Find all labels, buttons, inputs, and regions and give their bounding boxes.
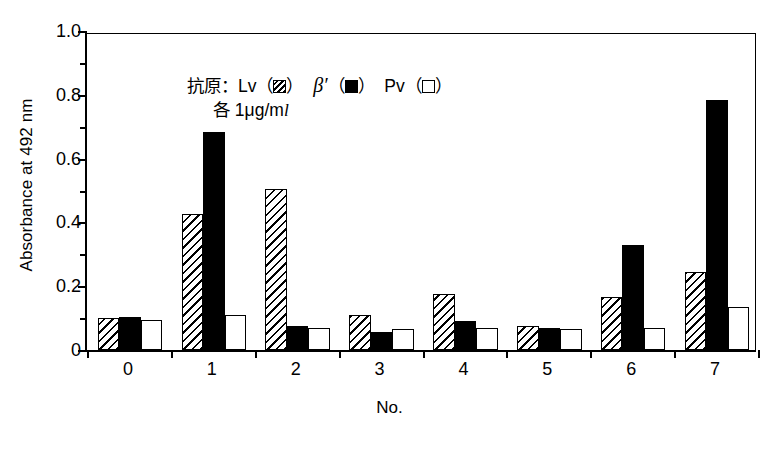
x-group-label-0: 0 <box>123 360 133 378</box>
legend-paren-open-3: （ <box>405 76 422 96</box>
x-group-label-2: 2 <box>291 360 301 378</box>
legend-row-concentration: 各 1μg/ml <box>187 99 452 123</box>
x-group-label-6: 6 <box>626 360 636 378</box>
bar--group-1 <box>203 132 225 351</box>
bar-Pv-group-7 <box>728 307 750 350</box>
x-tick-mark <box>339 350 341 358</box>
legend-row-antigens: 抗原：Lv（） β′（） Pv（） <box>187 72 452 99</box>
y-tick-mark <box>80 318 87 320</box>
x-tick-mark <box>171 350 173 358</box>
bar--group-2 <box>287 326 309 350</box>
y-tick-label: 0.4 <box>56 213 81 231</box>
x-group-label-5: 5 <box>542 360 552 378</box>
legend-beta-label: β′ <box>313 74 327 96</box>
x-group-label-4: 4 <box>458 360 468 378</box>
open-square-icon <box>422 80 435 93</box>
y-tick-mark <box>80 191 87 193</box>
x-axis-title: No. <box>0 398 779 418</box>
bar-Lv-group-1 <box>182 214 204 350</box>
x-tick-mark <box>87 350 89 358</box>
y-tick-mark <box>80 127 87 129</box>
legend-lv-label: 抗原：Lv <box>187 76 256 96</box>
x-tick-mark <box>506 350 508 358</box>
x-tick-mark <box>758 350 760 358</box>
x-tick-mark <box>255 350 257 358</box>
x-tick-mark <box>590 350 592 358</box>
y-axis-title: Absorbance at 492 nm <box>14 25 40 345</box>
legend-conc-prefix: 各 1 <box>213 100 245 120</box>
bar--group-4 <box>455 321 477 350</box>
bar-Lv-group-7 <box>685 272 707 350</box>
bar--group-3 <box>371 332 393 350</box>
legend-paren-open-1: （ <box>256 76 273 96</box>
x-tick-mark <box>423 350 425 358</box>
legend-mu-symbol: μ <box>245 100 255 120</box>
bar-Lv-group-3 <box>349 315 371 350</box>
legend: 抗原：Lv（） β′（） Pv（） 各 1μg/ml <box>187 72 452 123</box>
legend-conc-unit: g/m <box>255 100 284 120</box>
bar-Pv-group-1 <box>225 315 247 350</box>
legend-conc-unit-litre: l <box>284 100 289 120</box>
bar--group-7 <box>706 100 728 350</box>
legend-paren-close-2: ） <box>358 76 375 96</box>
y-tick-label: 1.0 <box>56 22 81 40</box>
bar-Lv-group-0 <box>98 318 120 350</box>
bar-Lv-group-4 <box>433 294 455 350</box>
bar--group-0 <box>119 317 141 350</box>
bar-Pv-group-3 <box>392 329 414 350</box>
legend-paren-close-1: ） <box>286 76 303 96</box>
x-group-label-1: 1 <box>207 360 217 378</box>
bar-Pv-group-2 <box>308 328 330 350</box>
filled-square-icon <box>345 80 358 93</box>
chart-figure: Absorbance at 492 nm 00.20.40.60.81.0 抗原… <box>0 0 779 450</box>
bar-Lv-group-2 <box>265 189 287 350</box>
bar-Pv-group-6 <box>644 328 666 350</box>
y-tick-mark <box>80 254 87 256</box>
legend-pv-label: Pv <box>384 76 404 96</box>
bar-Lv-group-5 <box>517 326 539 350</box>
x-group-label-7: 7 <box>710 360 720 378</box>
y-tick-label: 0 <box>71 341 81 359</box>
y-tick-mark <box>80 63 87 65</box>
legend-paren-close-3: ） <box>435 76 452 96</box>
y-tick-label: 0.6 <box>56 150 81 168</box>
bar-Pv-group-0 <box>141 320 163 350</box>
plot-area: 00.20.40.60.81.0 抗原：Lv（） β′（） Pv（） 各 1μg… <box>85 33 756 352</box>
bar-Lv-group-6 <box>601 297 623 350</box>
bar-Pv-group-5 <box>560 329 582 350</box>
bar-Pv-group-4 <box>476 328 498 350</box>
x-tick-mark <box>674 350 676 358</box>
bar--group-5 <box>539 328 561 350</box>
y-tick-label: 0.8 <box>56 86 81 104</box>
x-group-label-3: 3 <box>375 360 385 378</box>
y-tick-label: 0.2 <box>56 277 81 295</box>
bar--group-6 <box>622 245 644 350</box>
hatched-square-icon <box>273 80 286 93</box>
legend-paren-open-2: （ <box>328 76 345 96</box>
